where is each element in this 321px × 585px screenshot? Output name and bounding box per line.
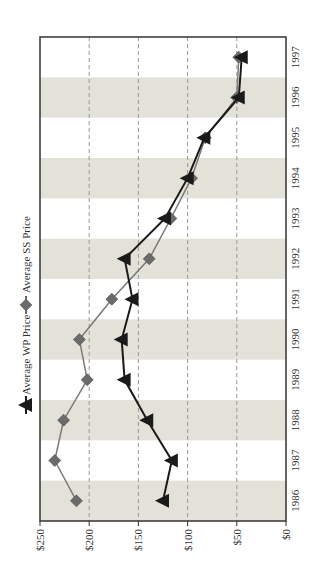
year-label: 1992 (289, 248, 301, 270)
diamond-marker (81, 374, 93, 386)
year-label: 1996 (289, 86, 301, 109)
year-label: 1993 (289, 207, 301, 230)
legend-item-wp: Average WP Price (18, 314, 32, 414)
value-axis: $0$50$100$150$200$250 (34, 521, 292, 551)
diamond-marker (49, 455, 61, 467)
year-label: 1991 (289, 288, 301, 310)
year-label: 1989 (289, 368, 301, 391)
year-label: 1997 (289, 46, 301, 69)
tick-label: $250 (34, 529, 46, 552)
legend-label-ss: Average SS Price (20, 216, 32, 293)
price-chart: $0$50$100$150$200$250 198619871988198919… (0, 0, 321, 585)
year-label: 1988 (289, 409, 301, 432)
year-label: 1986 (289, 489, 301, 512)
alternating-bands (40, 77, 286, 521)
legend-item-ss: Average SS Price (20, 216, 32, 314)
band (40, 77, 286, 117)
band (40, 239, 286, 279)
diamond-icon (20, 299, 32, 311)
year-label: 1987 (289, 449, 301, 472)
tick-label: $100 (182, 529, 194, 552)
year-label: 1995 (289, 126, 301, 149)
tick-label: $150 (132, 529, 144, 552)
tick-label: $0 (280, 529, 292, 541)
year-label: 1994 (289, 167, 301, 190)
legend-label-wp: Average WP Price (20, 314, 32, 395)
band (40, 158, 286, 198)
band (40, 400, 286, 440)
tick-label: $200 (83, 529, 95, 552)
tick-label: $50 (231, 529, 243, 546)
year-label: 1990 (289, 328, 301, 351)
legend: Average WP Price Average SS Price (18, 216, 32, 414)
year-axis: 1986198719881989199019911992199319941995… (289, 46, 301, 512)
